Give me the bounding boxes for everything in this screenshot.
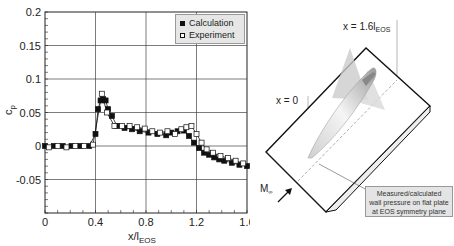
data-point: [55, 144, 60, 149]
data-point: [96, 107, 101, 112]
legend-calculation: Calculation: [180, 17, 240, 29]
callout-line-2: wall pressure on flat plate: [366, 198, 452, 207]
data-point: [99, 91, 104, 96]
x-tick-label: 0.4: [88, 216, 103, 228]
data-point: [112, 123, 117, 128]
x-end-label: x = 1.6lEOS: [343, 21, 391, 33]
data-point: [212, 155, 217, 160]
callout-line-1: Measured/calculated: [366, 189, 452, 198]
data-point: [184, 125, 189, 130]
y-tick-label: 0.15: [20, 40, 41, 52]
data-point: [179, 127, 184, 132]
data-point: [165, 129, 170, 134]
data-point: [173, 131, 178, 136]
data-point: [210, 150, 215, 155]
data-point: [189, 123, 194, 128]
data-point: [204, 147, 209, 152]
x-tick-labels: 00.40.81.21.6: [42, 216, 250, 228]
x-tick-label: 0.8: [138, 216, 153, 228]
data-point: [82, 144, 87, 149]
data-point: [64, 145, 69, 150]
data-point: [194, 131, 199, 136]
data-point: [226, 156, 231, 161]
data-point: [109, 113, 114, 118]
data-point: [46, 145, 51, 150]
y-tick-label: 0: [35, 140, 41, 152]
data-point: [157, 130, 162, 135]
y-axis-label: cp: [2, 105, 17, 116]
data-point: [73, 144, 78, 149]
data-point: [135, 125, 140, 130]
x-start-label: x = 0: [276, 95, 298, 106]
y-tick-label: -0.05: [16, 174, 41, 186]
data-point: [142, 126, 147, 131]
y-tick-labels: 0.20.150.10.050-0.05: [16, 6, 41, 186]
legend-experiment-label: Experiment: [189, 29, 235, 41]
data-point: [104, 110, 109, 115]
data-point: [191, 140, 196, 145]
open-square-marker-icon: [180, 33, 185, 38]
callout-line-3: at EOS symmetry plane: [366, 207, 452, 216]
chart-legend: Calculation Experiment: [175, 14, 245, 44]
mach-label: M∞: [260, 183, 273, 195]
legend-experiment: Experiment: [180, 29, 240, 41]
x-tick-label: 1.2: [189, 216, 204, 228]
data-point: [127, 123, 132, 128]
callout-box: Measured/calculated wall pressure on fla…: [365, 186, 453, 217]
data-point: [150, 129, 155, 134]
data-point: [90, 142, 95, 147]
x-axis-label: x/lEOS: [128, 230, 156, 245]
data-point: [233, 158, 238, 163]
x-tick-label: 0: [42, 216, 48, 228]
y-tick-label: 0.05: [20, 107, 41, 119]
data-point: [197, 146, 202, 151]
data-point: [199, 140, 204, 145]
y-tick-label: 0.1: [26, 73, 41, 85]
data-point: [120, 123, 125, 128]
data-point: [103, 98, 108, 103]
legend-calculation-label: Calculation: [189, 17, 234, 29]
filled-square-marker-icon: [180, 21, 185, 26]
data-point: [186, 133, 191, 138]
data-point: [218, 154, 223, 159]
data-point: [93, 131, 98, 136]
y-tick-label: 0.2: [26, 6, 41, 18]
